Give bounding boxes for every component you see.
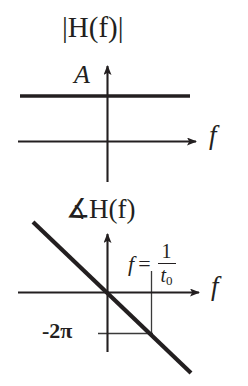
phase-x-axis-label-text: f (211, 271, 219, 301)
phase-x-axis-label: f (211, 273, 219, 300)
phase-title-function-text: H(f) (89, 194, 135, 224)
angle-icon: ∡ (66, 194, 89, 224)
magnitude-plot-group (18, 66, 196, 182)
magnitude-x-axis-label-text: f (209, 120, 217, 150)
phase-y-tick-label-text: -2π (42, 318, 72, 343)
frequency-annotation-equals: = (138, 251, 150, 276)
magnitude-plot-title: |H(f)| (62, 13, 124, 42)
amplitude-label-text: A (74, 60, 90, 89)
fraction-numerator: 1 (158, 241, 176, 262)
magnitude-title-text: |H(f)| (62, 11, 124, 43)
frequency-response-figure: |H(f)| A f ∡H(f) f=1t0 -2π f (0, 0, 248, 386)
fraction-denominator-subscript: 0 (166, 273, 173, 288)
magnitude-x-axis-label: f (209, 122, 217, 149)
frequency-annotation: f=1t0 (128, 243, 176, 288)
frequency-annotation-fraction: 1t0 (158, 241, 176, 286)
frequency-annotation-variable: f (128, 251, 134, 276)
phase-y-tick-label: -2π (42, 320, 72, 342)
amplitude-level-label: A (74, 62, 90, 88)
phase-plot-title: ∡H(f) (66, 196, 135, 223)
fraction-denominator: t0 (158, 265, 176, 286)
plot-vector-graphics (0, 0, 248, 386)
